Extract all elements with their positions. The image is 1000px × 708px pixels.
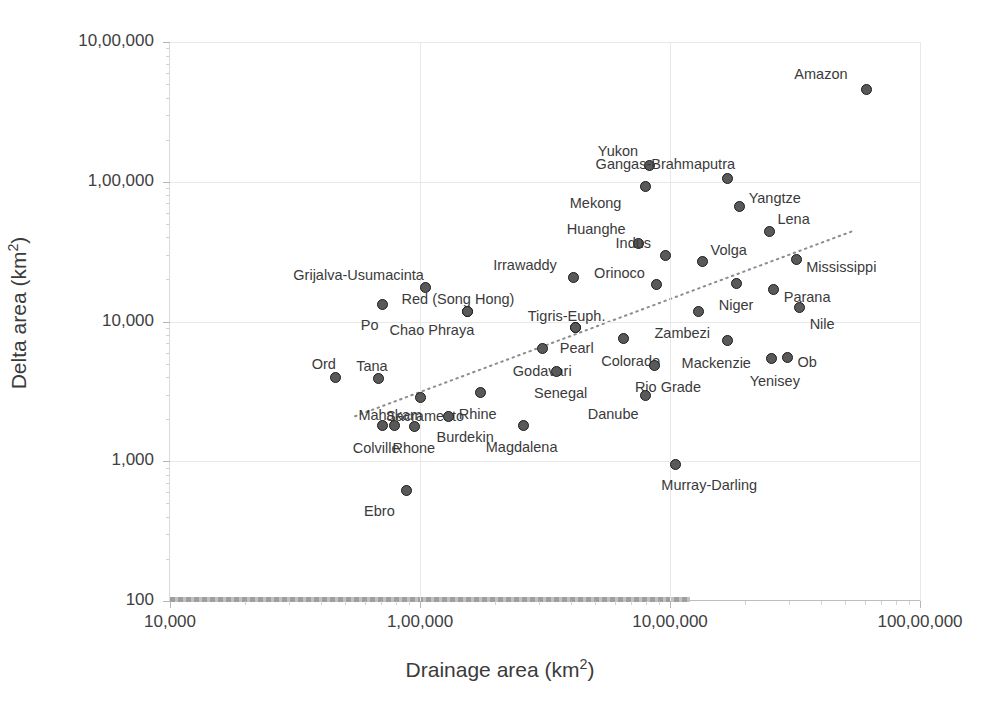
data-point[interactable] (764, 226, 775, 237)
y-axis-minor-tick (166, 335, 170, 336)
x-axis-tick-label: 10,000 (70, 612, 270, 632)
y-axis-tick-label: 10,000 (14, 311, 154, 331)
data-point[interactable] (415, 392, 426, 403)
data-point[interactable] (731, 278, 742, 289)
y-axis-title-text: Delta area (km2) (7, 237, 30, 390)
data-point[interactable] (670, 459, 681, 470)
data-point[interactable] (570, 322, 581, 333)
data-point[interactable] (518, 420, 529, 431)
data-point[interactable] (693, 306, 704, 317)
gridline-horizontal (170, 461, 920, 462)
data-point-label: Ebro (364, 504, 395, 519)
y-axis-tick (163, 461, 170, 462)
data-point[interactable] (861, 84, 872, 95)
x-axis-minor-tick (659, 601, 660, 605)
data-point[interactable] (722, 335, 733, 346)
x-axis-tick (170, 601, 171, 608)
x-axis-minor-tick (821, 601, 822, 605)
y-axis-minor-tick (166, 475, 170, 476)
data-point-label: Red (Song Hong) (402, 292, 515, 307)
y-axis-minor-tick (166, 419, 170, 420)
y-axis-tick-label: 100 (14, 590, 154, 610)
data-point-label: Danube (588, 407, 639, 422)
data-point[interactable] (649, 360, 660, 371)
data-point[interactable] (766, 353, 777, 364)
data-point-label: Volga (711, 243, 747, 258)
data-point[interactable] (768, 284, 779, 295)
data-point[interactable] (551, 366, 562, 377)
y-axis-minor-tick (166, 195, 170, 196)
y-axis-minor-tick (166, 64, 170, 65)
x-axis-tick-label: 1,00,000 (320, 612, 520, 632)
x-axis-minor-tick (365, 601, 366, 605)
data-point-label: Gangas-Brahmaputra (596, 157, 735, 172)
data-point-label: Chao Phraya (390, 323, 475, 338)
data-point[interactable] (443, 411, 454, 422)
y-axis-minor-tick (166, 188, 170, 189)
data-point-label: Pearl (560, 341, 594, 356)
x-axis-minor-tick (595, 601, 596, 605)
y-axis-minor-tick (166, 353, 170, 354)
data-point-label: Yangtze (749, 191, 801, 206)
data-point-label: Senegal (534, 386, 587, 401)
y-axis-minor-tick (166, 279, 170, 280)
data-point[interactable] (618, 333, 629, 344)
x-axis-title-text: Drainage area (km2) (406, 658, 595, 681)
x-axis-minor-tick (539, 601, 540, 605)
x-axis-minor-tick (396, 601, 397, 605)
data-point[interactable] (373, 373, 384, 384)
data-point[interactable] (640, 181, 651, 192)
y-axis-minor-tick (166, 468, 170, 469)
x-axis-minor-tick (381, 601, 382, 605)
data-point[interactable] (782, 352, 793, 363)
x-axis-minor-tick (289, 601, 290, 605)
data-point[interactable] (462, 306, 473, 317)
data-point-label: Magdalena (486, 440, 558, 455)
y-axis-minor-tick (166, 395, 170, 396)
x-axis-minor-tick (345, 601, 346, 605)
data-point-label: Ord (312, 357, 336, 372)
data-point[interactable] (475, 387, 486, 398)
data-point[interactable] (697, 256, 708, 267)
y-axis-minor-tick (166, 115, 170, 116)
data-point[interactable] (568, 272, 579, 283)
data-point[interactable] (377, 420, 388, 431)
data-point[interactable] (791, 254, 802, 265)
data-point[interactable] (401, 485, 412, 496)
x-axis-minor-tick (909, 601, 910, 605)
y-axis-minor-tick (166, 56, 170, 57)
y-axis-tick-label: 1,000 (14, 450, 154, 470)
data-point-label: Yenisey (750, 374, 800, 389)
y-axis-title: Delta area (km2) (5, 33, 31, 593)
y-axis-minor-tick (166, 483, 170, 484)
data-point[interactable] (734, 201, 745, 212)
x-axis-title: Drainage area (km2) (0, 656, 1000, 682)
data-point[interactable] (640, 390, 651, 401)
y-axis-minor-tick (166, 237, 170, 238)
data-point-label: Nile (810, 317, 835, 332)
x-axis-minor-tick (881, 601, 882, 605)
x-axis-minor-tick (865, 601, 866, 605)
data-point[interactable] (794, 302, 805, 313)
y-axis-minor-tick (166, 328, 170, 329)
y-axis-minor-tick (166, 364, 170, 365)
x-axis-minor-tick (896, 601, 897, 605)
data-point-label: Rhone (392, 441, 435, 456)
y-axis-tick (163, 601, 170, 602)
x-axis-tick-label: 100,00,000 (820, 612, 1000, 632)
x-axis-minor-tick (745, 601, 746, 605)
y-axis-minor-tick (166, 48, 170, 49)
data-point[interactable] (651, 279, 662, 290)
data-point-label: Mississippi (806, 260, 876, 275)
data-point[interactable] (409, 421, 420, 432)
data-point-label: Amazon (794, 67, 847, 82)
data-point-label: Tana (356, 359, 387, 374)
gridline-vertical (670, 42, 671, 601)
data-point[interactable] (537, 343, 548, 354)
x-axis-minor-tick (245, 601, 246, 605)
y-axis-minor-tick (166, 203, 170, 204)
y-axis-tick-label: 1,00,000 (14, 171, 154, 191)
data-point[interactable] (377, 299, 388, 310)
y-axis-minor-tick (166, 517, 170, 518)
data-point[interactable] (330, 372, 341, 383)
